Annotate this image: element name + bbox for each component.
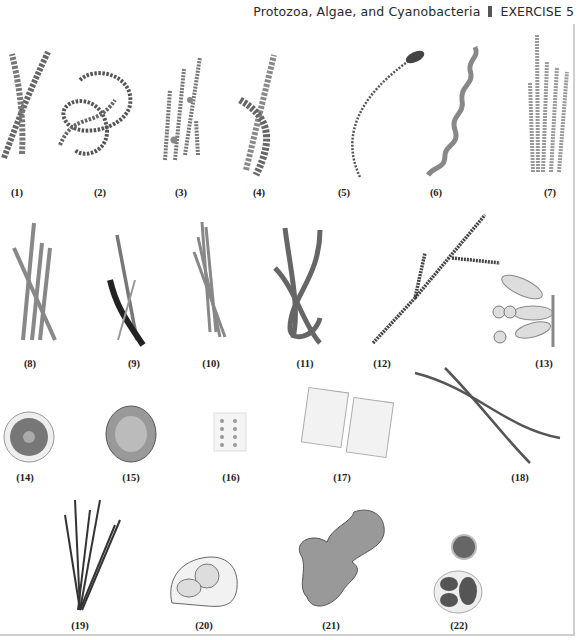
figure-label-11: (11): [297, 358, 314, 369]
figure-label-12: (12): [373, 358, 391, 369]
figure-label-10: (10): [202, 358, 220, 369]
figure-label-7: (7): [544, 187, 556, 198]
figure-label-14: (14): [16, 472, 34, 483]
figure-label-20: (20): [195, 620, 213, 631]
figure-label-19: (19): [71, 620, 89, 631]
figure-label-16: (16): [222, 472, 240, 483]
figure-label-4: (4): [253, 187, 265, 198]
chapter-title: Protozoa, Algae, and Cyanobacteria: [253, 4, 480, 19]
figure-label-6: (6): [430, 187, 442, 198]
figure-label-2: (2): [94, 187, 106, 198]
figure-label-9: (9): [128, 358, 140, 369]
figure-label-5: (5): [338, 187, 350, 198]
separator-bar: [488, 6, 492, 17]
figure-label-17: (17): [333, 472, 351, 483]
figure-label-3: (3): [175, 187, 187, 198]
exercise-label: EXERCISE 5: [500, 4, 574, 19]
figure-label-8: (8): [24, 358, 36, 369]
figure-label-21: (21): [322, 620, 340, 631]
figure-label-1: (1): [11, 187, 23, 198]
figure-label-18: (18): [511, 472, 529, 483]
page-header: Protozoa, Algae, and Cyanobacteria EXERC…: [253, 0, 574, 22]
figure-label-22: (22): [450, 620, 468, 631]
figure-label-15: (15): [122, 472, 140, 483]
